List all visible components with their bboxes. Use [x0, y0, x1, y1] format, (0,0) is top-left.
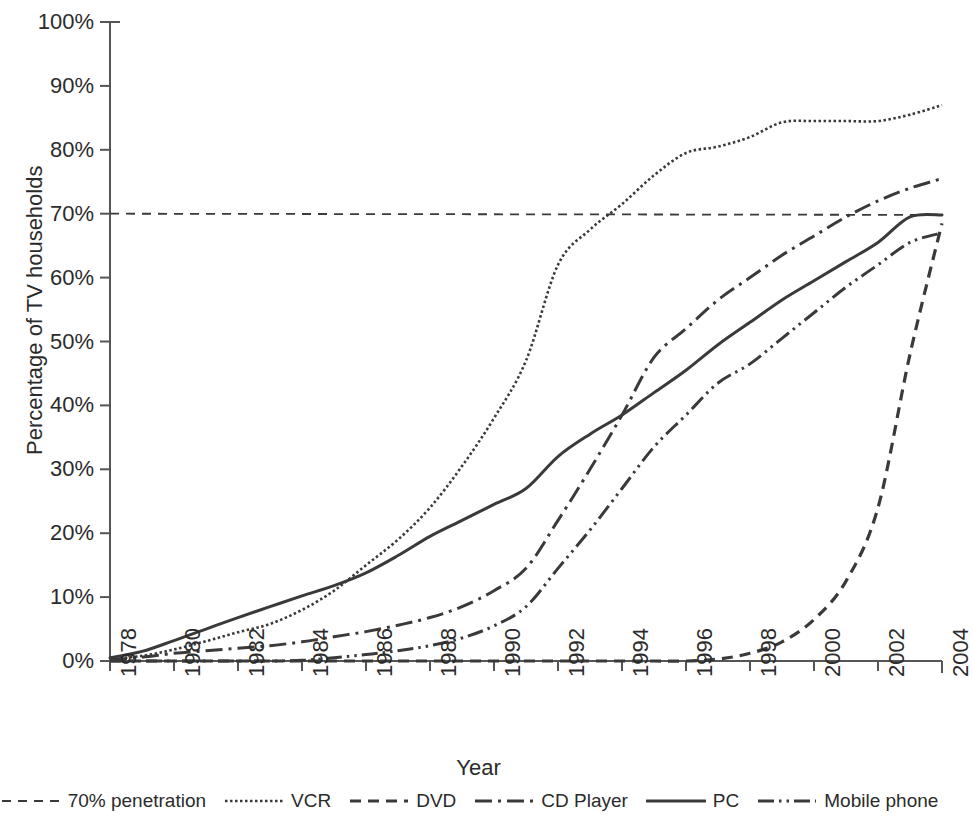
x-tick-label: 1986 — [374, 628, 396, 677]
y-tick-label: 10% — [50, 586, 94, 608]
y-axis-title: Percentage of TV households — [22, 166, 48, 455]
chart-axes — [110, 22, 942, 673]
x-tick-label: 1984 — [310, 628, 332, 677]
legend-label: 70% penetration — [68, 790, 206, 812]
series-line-vcr — [110, 105, 942, 659]
y-tick-label: 50% — [50, 331, 94, 353]
dashed-thick-swatch — [349, 794, 409, 808]
x-tick-label: 2002 — [886, 628, 908, 677]
dashed-swatch — [1, 794, 61, 808]
y-tick-label: 0% — [62, 650, 94, 672]
legend-label: CD Player — [541, 790, 628, 812]
legend-item-vcr[interactable]: VCR — [224, 790, 331, 812]
dotted-swatch — [224, 794, 284, 808]
x-tick-label: 1980 — [182, 628, 204, 677]
x-tick-label: 1982 — [246, 628, 268, 677]
legend-item-pc[interactable]: PC — [646, 790, 739, 812]
chart-series-lines — [110, 105, 942, 661]
y-tick-label: 90% — [50, 75, 94, 97]
x-tick-label: 1990 — [502, 628, 524, 677]
x-tick-label: 2000 — [822, 628, 844, 677]
dash-dot-swatch — [474, 794, 534, 808]
x-tick-label: 1988 — [438, 628, 460, 677]
y-tick-label: 40% — [50, 394, 94, 416]
legend-label: PC — [713, 790, 739, 812]
x-tick-label: 1978 — [118, 628, 140, 677]
x-tick-label: 2004 — [950, 628, 972, 677]
y-tick-label: 100% — [38, 11, 94, 33]
legend-item-mobile-phone[interactable]: Mobile phone — [757, 790, 938, 812]
series-line-pc — [110, 214, 942, 657]
series-line-cd-player — [110, 179, 942, 660]
y-tick-label: 30% — [50, 458, 94, 480]
x-tick-label: 1996 — [694, 628, 716, 677]
chart-legend: 70% penetrationVCRDVDCD PlayerPCMobile p… — [0, 790, 957, 812]
legend-label: DVD — [416, 790, 456, 812]
x-tick-label: 1992 — [566, 628, 588, 677]
legend-item-dvd[interactable]: DVD — [349, 790, 456, 812]
dash-dot-dot-swatch — [757, 794, 817, 808]
solid-swatch — [646, 794, 706, 808]
y-tick-label: 20% — [50, 522, 94, 544]
legend-item-cd-player[interactable]: CD Player — [474, 790, 628, 812]
series-line-mobile-phone — [110, 233, 942, 661]
y-tick-label: 70% — [50, 203, 94, 225]
y-tick-label: 80% — [50, 139, 94, 161]
legend-item-70-penetration[interactable]: 70% penetration — [1, 790, 206, 812]
x-axis-title: Year — [0, 755, 957, 781]
x-tick-label: 1998 — [758, 628, 780, 677]
legend-label: Mobile phone — [824, 790, 938, 812]
series-line-70-penetration — [110, 214, 930, 215]
legend-label: VCR — [291, 790, 331, 812]
series-line-dvd — [110, 223, 942, 661]
x-tick-label: 1994 — [630, 628, 652, 677]
y-tick-label: 60% — [50, 267, 94, 289]
